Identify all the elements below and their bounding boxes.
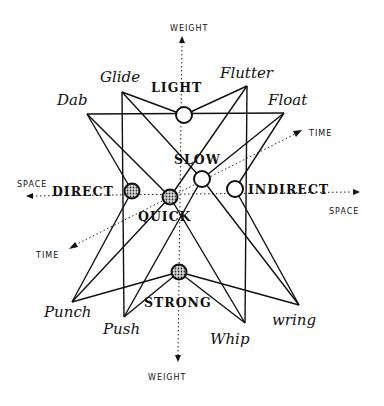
node-direct-icon	[125, 184, 140, 199]
factor-label-light: LIGHT	[151, 82, 202, 95]
action-label-glide: Glide	[100, 70, 140, 85]
edge-glide-push	[122, 92, 124, 317]
action-label-flutter: Flutter	[220, 66, 273, 81]
axis-label-weight-top: WEIGHT	[170, 25, 208, 33]
edge-slow-wring	[202, 179, 299, 305]
weight-up-arrow-icon	[179, 36, 185, 43]
weight-down-arrow-icon	[175, 355, 181, 362]
factor-label-slow: SLOW	[174, 154, 221, 167]
axis-label-space-right: SPACE	[329, 208, 359, 216]
space-right-arrow-icon	[353, 189, 360, 195]
diagram-lines	[0, 0, 384, 406]
time-right-arrow-icon	[293, 130, 302, 137]
effort-diagram: WEIGHT WEIGHT SPACE SPACE TIME TIME LIGH…	[0, 0, 384, 406]
node-indirect-icon	[227, 181, 243, 197]
factor-label-indirect: INDIRECT	[248, 184, 329, 197]
action-label-float: Float	[268, 93, 307, 108]
edge-float-indirect	[235, 113, 284, 189]
edge-glide-light	[122, 92, 184, 115]
time-left-arrow-icon	[69, 242, 78, 249]
node-light-icon	[176, 107, 192, 123]
factor-label-strong: STRONG	[144, 297, 212, 310]
axis-label-weight-bottom: WEIGHT	[148, 374, 186, 382]
space-left-arrow-icon	[26, 193, 33, 199]
edge-flutter-whip	[245, 86, 247, 323]
action-label-whip: Whip	[210, 332, 249, 347]
action-label-push: Push	[103, 322, 140, 337]
action-label-punch: Punch	[44, 305, 91, 320]
axis-label-time-right: TIME	[309, 130, 332, 138]
node-strong-icon	[172, 265, 187, 280]
action-label-wring: wring	[272, 313, 316, 328]
axis-label-time-left: TIME	[36, 252, 59, 260]
factor-label-quick: QUICK	[138, 211, 191, 224]
factor-label-direct: DIRECT	[52, 186, 114, 199]
axis-label-space-left: SPACE	[17, 181, 47, 189]
action-label-dab: Dab	[57, 93, 88, 108]
node-slow-icon	[194, 171, 210, 187]
node-quick-icon	[163, 190, 178, 205]
